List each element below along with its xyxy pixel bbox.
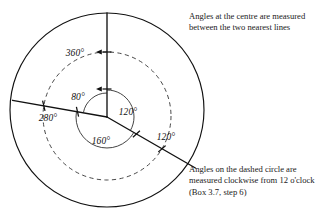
label-centre-80: 80° xyxy=(71,92,85,102)
note-circle-bearings: Angles on the dashed circle are measured… xyxy=(189,164,323,198)
label-bearing-120: 120° xyxy=(157,132,176,142)
arrow-360 xyxy=(96,49,102,54)
label-centre-160: 160° xyxy=(92,136,111,146)
label-bearing-280: 280° xyxy=(39,113,58,123)
label-centre-120: 120° xyxy=(119,107,138,117)
ray-upper-left-280 xyxy=(13,100,108,117)
ray-lower-right-120 xyxy=(107,117,195,168)
arc-centre-80 xyxy=(83,93,107,113)
tick-inner-right xyxy=(133,131,140,137)
label-bearing-360: 360° xyxy=(65,48,85,58)
diagram-figure: 80° 120° 160° 360° 280° 120° Angles at t… xyxy=(0,0,325,217)
arrow-80 xyxy=(96,86,102,91)
note-centre-angles: Angles at the centre are measured betwee… xyxy=(189,11,323,34)
